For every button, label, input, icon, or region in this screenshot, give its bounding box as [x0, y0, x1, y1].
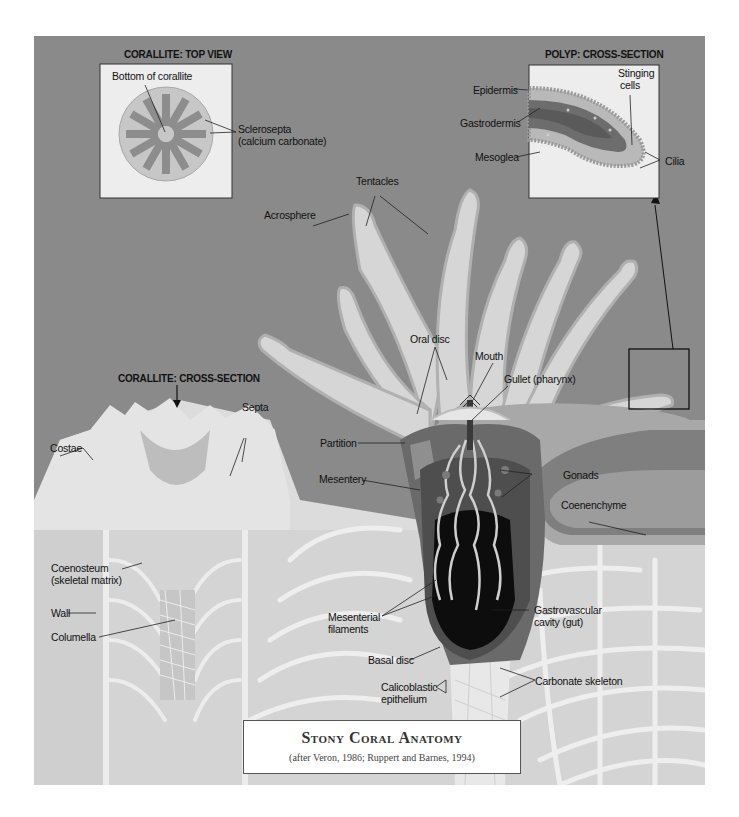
- label-sclerosepta: Sclerosepta: [238, 123, 291, 135]
- coral-illustration: [0, 0, 739, 817]
- label-mesentery: Mesentery: [319, 473, 366, 485]
- label-mesenterial-filaments-sub: filaments: [328, 623, 368, 635]
- top-view-inset-art: [100, 64, 236, 198]
- label-mesoglea: Mesoglea: [475, 151, 519, 163]
- label-partition: Partition: [320, 437, 357, 449]
- label-coenenchyme: Coenenchyme: [561, 499, 627, 511]
- label-gastrodermis: Gastrodermis: [460, 117, 521, 129]
- diagram-citation: (after Veron, 1986; Ruppert and Barnes, …: [244, 752, 520, 763]
- label-calicoblastic-epithelium-sub: epithelium: [381, 693, 427, 705]
- label-gastrovascular-cavity: Gastrovascular: [534, 604, 602, 616]
- label-tentacles: Tentacles: [356, 175, 399, 187]
- top-view-heading: CORALLITE: TOP VIEW: [124, 49, 232, 60]
- cross-section-heading: CORALLITE: CROSS-SECTION: [118, 373, 260, 384]
- label-acrosphere: Acrosphere: [264, 209, 316, 221]
- label-oral-disc: Oral disc: [410, 333, 450, 345]
- label-mesenterial-filaments: Mesenterial: [328, 611, 380, 623]
- label-cilia: Cilia: [665, 155, 684, 167]
- label-sclerosepta-sub: (calcium carbonate): [238, 135, 326, 147]
- label-gastrovascular-cavity-sub: cavity (gut): [534, 616, 583, 628]
- diagram-title: Stony Coral Anatomy: [244, 729, 520, 747]
- label-septa: Septa: [242, 401, 268, 413]
- label-calicoblastic-epithelium: Calicoblastic: [381, 681, 437, 693]
- title-box: Stony Coral Anatomy (after Veron, 1986; …: [243, 720, 521, 774]
- label-mouth: Mouth: [475, 350, 503, 362]
- label-epidermis: Epidermis: [473, 84, 518, 96]
- label-carbonate-skeleton: Carbonate skeleton: [535, 675, 622, 687]
- label-bottom-of-corallite: Bottom of corallite: [112, 70, 192, 82]
- gastrovascular-cavity: [432, 510, 515, 650]
- label-stinging-cells-sub: cells: [620, 79, 640, 91]
- label-columella: Columella: [51, 631, 96, 643]
- label-basal-disc: Basal disc: [368, 654, 414, 666]
- label-coenosteum: Coenosteum: [51, 562, 109, 574]
- label-coenosteum-sub: (skeletal matrix): [51, 574, 122, 586]
- label-stinging-cells: Stinging: [618, 67, 654, 79]
- label-gonads: Gonads: [563, 469, 599, 481]
- label-costae: Costae: [50, 442, 82, 454]
- polyp-section-heading: POLYP: CROSS-SECTION: [545, 49, 663, 60]
- label-wall: Wall: [51, 607, 70, 619]
- label-gullet: Gullet (pharynx): [504, 373, 576, 385]
